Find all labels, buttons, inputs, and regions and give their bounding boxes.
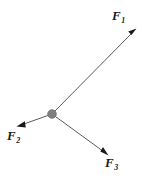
vector-label-f1: F1 <box>112 9 125 22</box>
vector-label-f2: F2 <box>7 129 20 142</box>
arrowhead-f1 <box>128 29 136 36</box>
application-point-dot <box>48 110 57 119</box>
force-vector-canvas <box>0 0 142 181</box>
arrowhead-f2 <box>17 121 26 127</box>
vector-shaft-f3 <box>52 114 104 152</box>
vector-label-f3-symbol: F <box>105 155 114 170</box>
vector-label-f1-subscript: 1 <box>121 16 125 25</box>
vector-shaft-f1 <box>52 33 133 115</box>
vector-label-f3-subscript: 3 <box>114 163 118 172</box>
vector-label-f1-symbol: F <box>112 8 121 23</box>
vector-label-f2-symbol: F <box>7 128 16 143</box>
force-diagram: F1 F2 F3 <box>0 0 142 181</box>
vector-label-f3: F3 <box>105 156 118 169</box>
vector-label-f2-subscript: 2 <box>16 136 20 145</box>
